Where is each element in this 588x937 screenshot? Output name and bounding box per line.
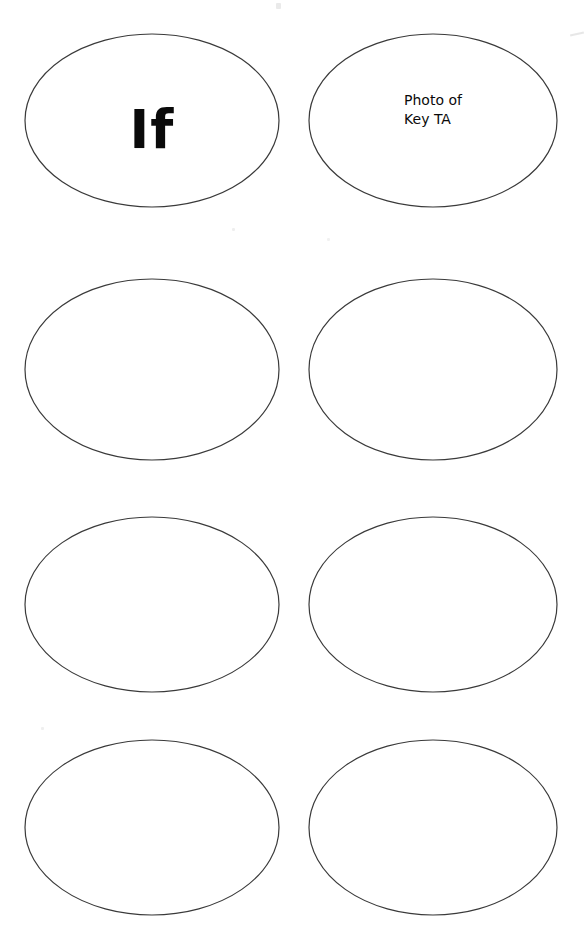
oval-outline-5 — [24, 516, 280, 693]
oval-outline-4 — [308, 278, 558, 461]
oval-5[interactable] — [24, 516, 280, 693]
oval-1[interactable]: If — [24, 33, 280, 208]
oval-8[interactable] — [308, 739, 558, 916]
oval-4[interactable] — [308, 278, 558, 461]
oval-outline-1 — [24, 33, 280, 208]
oval-outline-2 — [308, 33, 558, 208]
scan-artifact-speck-2 — [327, 238, 330, 241]
oval-6[interactable] — [308, 516, 558, 693]
oval-outline-3 — [24, 278, 280, 461]
oval-outline-6 — [308, 516, 558, 693]
scan-artifact-right — [570, 32, 584, 37]
oval-3[interactable] — [24, 278, 280, 461]
oval-outline-8 — [308, 739, 558, 916]
scan-artifact-speck-1 — [232, 228, 235, 231]
oval-7[interactable] — [24, 739, 280, 916]
worksheet-page: IfPhoto of Key TA — [0, 0, 588, 937]
scan-artifact-top — [276, 3, 281, 9]
oval-outline-7 — [24, 739, 280, 916]
oval-2[interactable]: Photo of Key TA — [308, 33, 558, 208]
scan-artifact-speck-3 — [41, 727, 44, 730]
